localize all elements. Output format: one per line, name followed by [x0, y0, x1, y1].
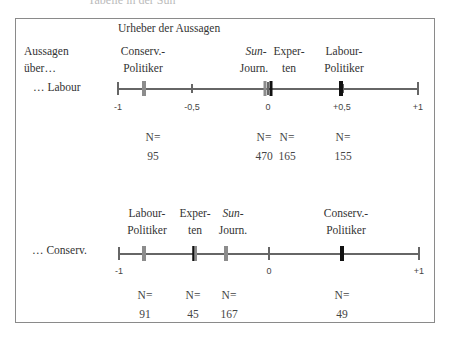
marker-conserv-politiker [340, 246, 344, 261]
speaker-label: Exper- [273, 44, 304, 59]
speaker-label: Conserv.- [324, 206, 368, 221]
chart-frame [15, 18, 435, 323]
n-label: N= [257, 129, 272, 146]
marker-labour-politiker [142, 246, 146, 261]
n-label: N= [222, 287, 237, 304]
panel-labour-row-label: … Labour [33, 80, 81, 95]
speaker-label: Conserv.- [121, 44, 165, 59]
axis-tick [191, 84, 193, 93]
tick-label: 0 [266, 266, 271, 276]
speaker-label: Sun- [222, 206, 243, 221]
axis-tick [268, 247, 270, 260]
marker-conserv-politiker [142, 81, 146, 96]
n-label: N= [146, 129, 161, 146]
marker-experten-edge [192, 246, 194, 261]
row-label-line2: über… [24, 61, 56, 76]
axis-tick [418, 247, 420, 260]
speaker-label: ten [188, 223, 202, 238]
n-label: N= [336, 129, 351, 146]
n-label: N= [138, 287, 153, 304]
n-value: 95 [147, 148, 159, 165]
speaker-label: ten [282, 61, 296, 76]
speaker-label: Politiker [326, 223, 366, 238]
tick-label: +0,5 [333, 102, 351, 112]
n-value: 91 [139, 306, 151, 323]
speaker-label: Politiker [324, 61, 364, 76]
speaker-label: Labour- [129, 206, 166, 221]
tick-label: -0,5 [184, 102, 200, 112]
n-label: N= [280, 129, 295, 146]
panel-conserv-row-label: … Conserv. [32, 243, 87, 258]
axis-tick [417, 82, 419, 95]
speaker-label: Politiker [123, 61, 163, 76]
marker-sun-journ [264, 81, 267, 96]
tick-label: -1 [115, 266, 123, 276]
n-value: 470 [255, 148, 272, 165]
n-value: 165 [278, 148, 295, 165]
axis-tick [267, 82, 269, 95]
tick-label: +1 [414, 266, 424, 276]
tick-label: -1 [114, 102, 122, 112]
n-label: N= [335, 287, 350, 304]
speaker-label: Journ. [240, 61, 268, 76]
tick-label: 0 [265, 102, 270, 112]
n-value: 45 [187, 306, 199, 323]
source-label: Urheber der Aussagen [118, 21, 220, 36]
n-value: 49 [336, 306, 348, 323]
n-value: 155 [334, 148, 351, 165]
clipped-caption: Tabelle in der Sun [88, 0, 175, 8]
marker-sun-journ [224, 246, 228, 261]
marker-experten [270, 81, 273, 96]
n-value: 167 [220, 306, 237, 323]
tick-label: +1 [413, 102, 423, 112]
speaker-label: Exper- [179, 206, 210, 221]
speaker-label: Labour- [326, 44, 363, 59]
axis-tick [117, 82, 119, 95]
speaker-label: Sun- [245, 44, 266, 59]
axis-tick [118, 247, 120, 260]
n-label: N= [186, 287, 201, 304]
speaker-label: Politiker [127, 223, 167, 238]
row-label-line1: Aussagen [24, 44, 69, 59]
speaker-label: Journ. [219, 223, 247, 238]
marker-labour-politiker [339, 81, 343, 96]
